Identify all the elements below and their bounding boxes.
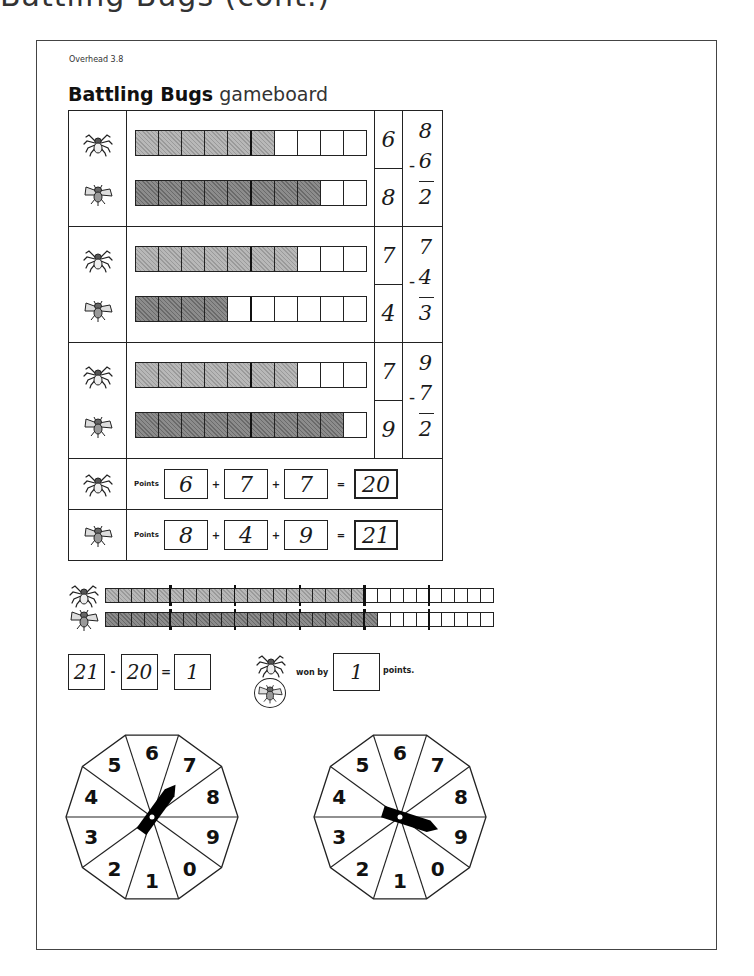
- points-icon-cell: [69, 459, 127, 509]
- spider-icon: [83, 131, 113, 157]
- spider-icon: [83, 471, 113, 497]
- bar-cell: [205, 247, 228, 271]
- round-bars: [127, 227, 375, 342]
- cumulative-cell: [184, 613, 197, 626]
- cumulative-cell: [119, 589, 132, 602]
- bar-cell: [182, 363, 205, 387]
- spinner-number: 4: [332, 785, 346, 809]
- winner-selector: [252, 652, 292, 722]
- spider-score: 6: [375, 111, 402, 169]
- fly-icon[interactable]: [257, 681, 283, 705]
- spinner-number: 0: [431, 857, 445, 881]
- title-light: gameboard: [219, 83, 328, 105]
- spider-icon[interactable]: [256, 652, 286, 678]
- cumulative-cell: [429, 589, 442, 602]
- cumulative-cell: [352, 589, 365, 602]
- sub-minus: -: [409, 387, 415, 408]
- title-bold: Battling Bugs: [68, 83, 213, 105]
- bar-cell: [252, 413, 275, 437]
- spider-score: 7: [375, 343, 402, 401]
- cumulative-cell: [326, 613, 339, 626]
- bar-cell: [136, 181, 159, 205]
- fly-icon: [68, 606, 100, 632]
- bar-cell: [344, 297, 366, 321]
- sub-minus: -: [409, 271, 415, 292]
- cumulative-cell: [171, 613, 184, 626]
- cumulative-cell: [184, 589, 197, 602]
- fly-icon: [83, 297, 113, 323]
- bar-cell: [275, 181, 298, 205]
- round-3-points: 7: [284, 469, 328, 499]
- spinner-number: 9: [454, 825, 468, 849]
- sub-result: 3: [419, 301, 432, 325]
- bar-cell: [159, 131, 182, 155]
- equals-sign: =: [158, 665, 174, 679]
- sub-bottom: 4: [419, 265, 432, 289]
- cumulative-cell: [248, 613, 261, 626]
- plus-sign: +: [208, 479, 224, 490]
- sub-bottom: 6: [419, 149, 432, 173]
- bar-cell: [136, 131, 159, 155]
- bar-cell: [182, 413, 205, 437]
- bar-cell: [159, 363, 182, 387]
- cumulative-cell: [197, 589, 210, 602]
- points-label: Points: [134, 531, 164, 539]
- spinner-left[interactable]: 6789012345: [62, 727, 242, 907]
- cumulative-cell: [455, 613, 468, 626]
- bar-cell: [321, 247, 344, 271]
- bar-cell: [252, 131, 275, 155]
- spinner-right[interactable]: 6789012345: [310, 727, 490, 907]
- round-subtraction: 9-72: [403, 343, 442, 458]
- round-icons: [69, 227, 127, 342]
- cumulative-cell: [119, 613, 132, 626]
- bar-cell: [275, 131, 298, 155]
- fly-score: 8: [375, 169, 402, 226]
- bar-cell: [344, 413, 366, 437]
- cumulative-cell: [158, 613, 171, 626]
- bar-cell: [252, 181, 275, 205]
- score-bar: [135, 412, 367, 438]
- cutoff-heading: Battling Bugs (cont.): [0, 0, 330, 13]
- spinner-number: 2: [107, 857, 121, 881]
- spinner-face: 6789012345: [310, 727, 490, 907]
- points-row-spider: Points6+7+7=20: [69, 459, 442, 510]
- round-icons: [69, 343, 127, 458]
- spinner-number: 1: [145, 869, 159, 893]
- spinner-number: 5: [107, 753, 121, 777]
- cumulative-track-spider: [105, 588, 494, 603]
- cumulative-cell: [145, 589, 158, 602]
- bar-cell: [344, 247, 366, 271]
- points-label: Points: [134, 480, 164, 488]
- bar-cell: [136, 297, 159, 321]
- bar-cell: [205, 181, 228, 205]
- spinner-number: 9: [206, 825, 220, 849]
- spinner-number: 0: [183, 857, 197, 881]
- bar-cell: [159, 181, 182, 205]
- bar-cell: [298, 247, 321, 271]
- score-bar: [135, 296, 367, 322]
- sub-top: 7: [419, 235, 432, 259]
- round-row: 747-43: [69, 227, 442, 343]
- spider-icon: [68, 582, 100, 608]
- sub-line: [419, 413, 434, 414]
- fly-icon: [83, 522, 113, 548]
- cumulative-cell: [391, 613, 404, 626]
- score-bar: [135, 130, 367, 156]
- sub-bottom: 7: [419, 381, 432, 405]
- spinner-number: 8: [206, 785, 220, 809]
- cumulative-cell: [210, 613, 223, 626]
- won-by-box: 1: [333, 653, 380, 691]
- cumulative-cell: [300, 589, 313, 602]
- cumulative-cell: [442, 613, 455, 626]
- bar-cell: [321, 297, 344, 321]
- bar-cell: [275, 247, 298, 271]
- sub-top: 8: [419, 119, 432, 143]
- gameboard-table: 688-62747-43799-72Points6+7+7=20Points8+…: [68, 110, 443, 561]
- cumulative-cell: [326, 589, 339, 602]
- bar-cell: [205, 297, 228, 321]
- cumulative-cell: [197, 613, 210, 626]
- fly-icon: [83, 413, 113, 439]
- bar-cell: [344, 131, 366, 155]
- round-1-points: 6: [164, 469, 208, 499]
- spinner-pin: [150, 815, 155, 820]
